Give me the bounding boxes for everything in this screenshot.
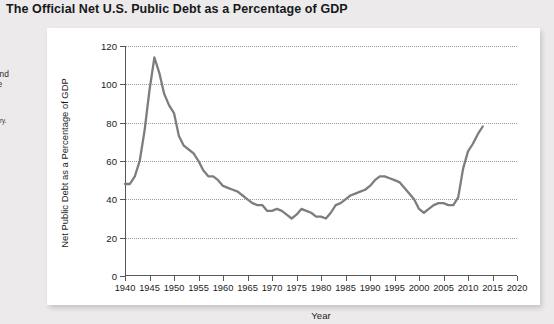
x-axis-tick-label: 1955 [188,283,209,293]
caption-line: 70s, [0,59,46,69]
x-axis-tick-label: 1970 [262,283,283,293]
x-axis-tick-label: 1940 [115,283,136,293]
caption-line: y. [0,100,46,110]
x-axis-tick [223,276,224,281]
x-axis-tick-label: 2020 [507,283,528,293]
x-axis-tick [395,276,396,281]
x-axis-tick [517,276,518,281]
x-axis-tick [493,276,494,281]
y-axis-tick-label: 60 [106,156,117,167]
x-axis-tick-label: 1985 [335,283,356,293]
x-axis-tick [174,276,175,281]
x-axis-tick-label: 1965 [237,283,258,293]
y-axis-tick-label: 20 [106,232,117,243]
caption-line: er the [0,49,46,59]
caption-column: e offi- lic debt er the 70s, 980s, and r… [0,28,46,125]
x-axis-tick [370,276,371,281]
x-axis-tick [150,276,151,281]
x-axis-tick-label: 2015 [482,283,503,293]
debt-series-line [125,46,517,276]
x-axis-tick-label: 2005 [433,283,454,293]
x-axis-tick-label: 2000 [409,283,430,293]
page-title: The Official Net U.S. Public Debt as a P… [6,2,348,16]
caption-line: re in the [0,79,46,89]
caption-line: lic debt [0,38,46,48]
y-axis-title: Net Public Debt as a Percentage of GDP [57,48,71,278]
y-axis-title-label: Net Public Debt as a Percentage of GDP [59,78,70,247]
caption-line: 980s, and [0,69,46,79]
y-axis-tick-label: 0 [112,271,117,282]
x-axis-tick-label: 1950 [164,283,185,293]
plot-area: 020406080100120 194019451950195519601965… [125,46,517,276]
y-axis-tick-label: 100 [101,79,117,90]
x-axis-tick-label: 1990 [360,283,381,293]
x-axis-tick [321,276,322,281]
caption-line: s [0,90,46,100]
y-axis-tick-label: 120 [101,41,117,52]
chart-card: Net Public Debt as a Percentage of GDP 0… [47,28,540,305]
x-axis-tick [346,276,347,281]
x-axis-tick [468,276,469,281]
x-axis-tick-label: 1995 [384,283,405,293]
caption-source: he Treasury. [0,117,46,125]
x-axis-title: Year [125,310,517,321]
x-axis-tick [248,276,249,281]
x-axis-tick [125,276,126,281]
x-axis-tick [199,276,200,281]
x-axis-tick-label: 2010 [458,283,479,293]
x-axis-tick [444,276,445,281]
x-axis-tick [297,276,298,281]
x-axis-tick-label: 1980 [311,283,332,293]
x-axis-tick [272,276,273,281]
y-axis-tick-label: 80 [106,117,117,128]
caption-line: e offi- [0,28,46,38]
x-axis-tick [419,276,420,281]
x-axis-tick-label: 1975 [286,283,307,293]
y-axis-tick-label: 40 [106,194,117,205]
x-axis-tick-label: 1960 [213,283,234,293]
x-axis-tick-label: 1945 [139,283,160,293]
